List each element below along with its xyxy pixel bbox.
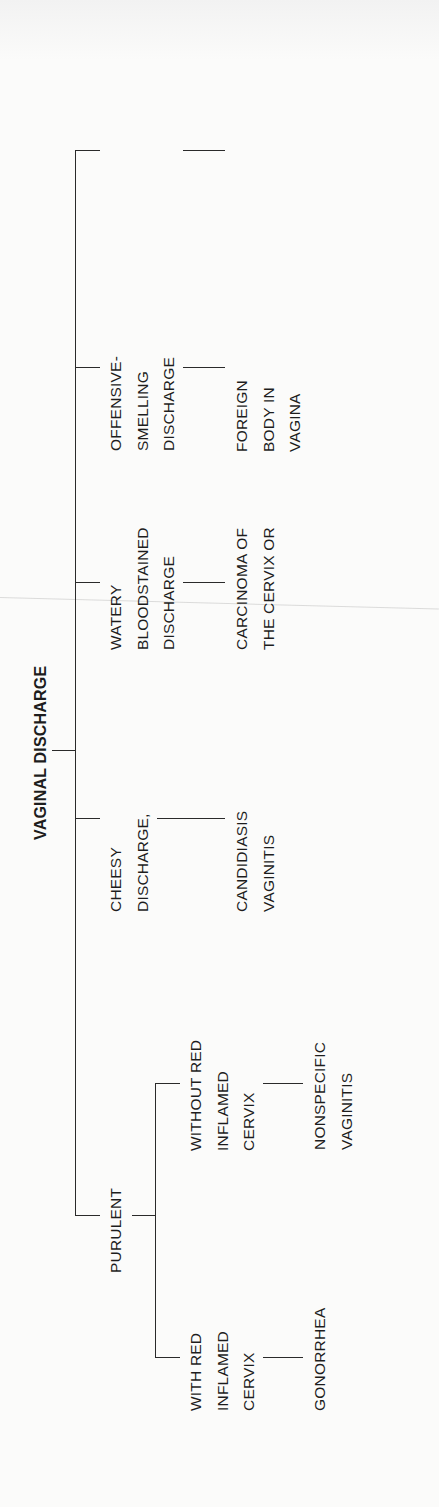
- node-line: DISCHARGE: [156, 356, 183, 451]
- connector-offensive-diagnosis: [183, 150, 225, 151]
- connector-frothy-diagnosis: [157, 818, 225, 819]
- node-frothy-yellow-discharge: CHEESY DISCHARGE,: [103, 814, 156, 912]
- diagnosis-line: GONORRHEA: [307, 1308, 334, 1411]
- connector-without-red: [155, 1083, 180, 1084]
- node-line: DISCHARGE: [156, 527, 183, 650]
- diagnosis-line: VAGINITIS: [256, 811, 283, 912]
- node-line: DISCHARGE,: [130, 814, 157, 912]
- node-line: INFLAMED: [210, 1331, 237, 1411]
- node-line: CERVIX: [236, 1331, 263, 1411]
- node-line: WITH RED: [183, 1331, 210, 1411]
- connector-cheesy: [75, 582, 100, 583]
- connector-watery-diagnosis: [183, 367, 225, 368]
- connector-frothy: [75, 818, 100, 819]
- node-line: OFFENSIVE-: [103, 356, 130, 451]
- diagnosis-line: VAGINITIS: [334, 1042, 361, 1150]
- node-line: BLOODSTAINED: [130, 527, 157, 650]
- node-without-red-inflamed-cervix: WITHOUT RED INFLAMED CERVIX: [183, 1040, 263, 1151]
- diagnosis-line: BODY IN: [256, 380, 283, 452]
- node-watery-bloodstained-discharge: OFFENSIVE- SMELLING DISCHARGE: [103, 356, 183, 451]
- title-text: VAGINAL DISCHARGE: [31, 666, 51, 840]
- connector-trunk: [75, 150, 76, 1216]
- connector-cheesy-diagnosis: [183, 582, 225, 583]
- node-line: INFLAMED: [210, 1040, 237, 1151]
- diagnosis-candidiasis: CARCINOMA OF THE CERVIX OR: [229, 527, 282, 650]
- connector-title: [52, 750, 76, 751]
- node-line: WATERY: [103, 527, 130, 650]
- connector-with-red: [155, 1357, 180, 1358]
- connector-offensive: [75, 150, 100, 151]
- node-with-red-inflamed-cervix: WITH RED INFLAMED CERVIX: [183, 1331, 263, 1411]
- connector-purulent: [75, 1215, 100, 1216]
- node-line: WITHOUT RED: [183, 1040, 210, 1151]
- diagnosis-gonorrhea: GONORRHEA: [307, 1308, 334, 1411]
- scan-shading: [0, 0, 439, 60]
- diagnosis-line: FOREIGN: [229, 380, 256, 452]
- title-vaginal-discharge: VAGINAL DISCHARGE: [31, 666, 51, 840]
- connector-purulent-sub: [132, 1215, 156, 1216]
- diagnosis-carcinoma: FOREIGN BODY IN VAGINA: [229, 380, 309, 452]
- node-line: SMELLING: [130, 356, 157, 451]
- node-line: CHEESY: [103, 814, 130, 912]
- connector-without-red-diagnosis: [263, 1083, 303, 1084]
- connector-purulent-split: [155, 1083, 156, 1358]
- node-cheesy-discharge-itching: WATERY BLOODSTAINED DISCHARGE: [103, 527, 183, 650]
- connector-with-red-diagnosis: [263, 1357, 303, 1358]
- diagnosis-nonspecific-vaginitis: NONSPECIFIC VAGINITIS: [307, 1042, 360, 1150]
- diagnosis-line: CARCINOMA OF: [229, 527, 256, 650]
- node-line: CERVIX: [236, 1040, 263, 1151]
- diagnosis-line: CANDIDIASIS: [229, 811, 256, 912]
- node-line: PURULENT: [103, 1188, 130, 1273]
- paper-crease: [0, 597, 439, 609]
- node-purulent: PURULENT: [103, 1188, 130, 1273]
- diagnosis-line: NONSPECIFIC: [307, 1042, 334, 1150]
- diagnosis-line: VAGINA: [282, 380, 309, 452]
- connector-watery: [75, 367, 100, 368]
- diagnosis-trichomoniasis: CANDIDIASIS VAGINITIS: [229, 811, 282, 912]
- diagnosis-line: THE CERVIX OR: [256, 527, 283, 650]
